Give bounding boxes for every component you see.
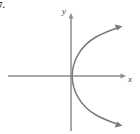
parabola-lower-arrowhead-icon <box>115 121 123 127</box>
parabola-figure: 7. y x <box>0 0 140 134</box>
x-axis-arrowhead-icon <box>121 74 127 79</box>
parabola-lower-curve <box>72 76 117 124</box>
y-axis-arrowhead-icon <box>69 13 74 19</box>
y-axis-label: y <box>62 7 66 16</box>
parabola-upper-branch <box>72 25 122 76</box>
x-axis <box>8 74 126 79</box>
parabola-upper-curve <box>72 28 117 76</box>
parabola-lower-branch <box>72 76 122 127</box>
parabola-upper-arrowhead-icon <box>115 25 123 31</box>
x-axis-label: x <box>128 75 132 84</box>
coordinate-plane-graphic <box>0 0 140 134</box>
